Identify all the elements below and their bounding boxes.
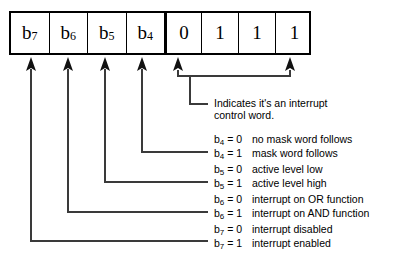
annotation-desc: active level high: [252, 177, 327, 189]
annotation-bit-expr: b5 = 1: [214, 177, 252, 191]
annotation-bit-expr: b6 = 1: [214, 207, 252, 221]
register-cell-value-1: 1: [239, 13, 276, 53]
annotation-desc: active level low: [252, 163, 323, 175]
annotation-bit-expr: b4 = 1: [214, 147, 252, 161]
register-cell-b5: b5: [88, 13, 127, 53]
annotation-bit-expr: b7 = 0: [214, 223, 252, 237]
annotation-bit-expr: b7 = 1: [214, 237, 252, 251]
arrow-up-icon-b5: [100, 57, 110, 71]
annotation-bit-expr: b6 = 0: [214, 193, 252, 207]
annotation-line: b4 = 0no mask word follows: [214, 133, 352, 147]
annotation-line: control word.: [214, 109, 327, 121]
leader-line-nibble-drop: [190, 76, 208, 104]
cell-text: 1: [290, 22, 300, 44]
arrow-up-icon-nibble-right: [285, 57, 295, 71]
annotation-line: b6 = 1interrupt on AND function: [214, 207, 369, 221]
arrow-up-icon-b7: [26, 57, 36, 71]
cell-text: 1: [215, 22, 225, 44]
leader-bracket-nibble: [178, 70, 290, 76]
register-box: b7 b6 b5 b4 0 1 1 1: [9, 11, 311, 55]
interrupt-control-word-diagram: b7 b6 b5 b4 0 1 1 1: [0, 0, 400, 272]
annotation-desc: interrupt on OR function: [252, 193, 363, 205]
annotation-line: b4 = 1mask word follows: [214, 147, 352, 161]
annotation-b6-note: b6 = 0interrupt on OR function b6 = 1int…: [214, 193, 369, 222]
cell-subscript: 4: [147, 29, 153, 44]
leader-line-b4: [142, 69, 208, 152]
annotation-line: b5 = 0active level low: [214, 163, 327, 177]
arrow-up-icon-b6: [63, 57, 73, 71]
leader-line-b7: [31, 69, 208, 241]
register-cell-b6: b6: [50, 13, 89, 53]
leader-line-b5: [105, 69, 208, 182]
register-cell-value-3: 0: [165, 13, 202, 53]
annotation-identifier-note: Indicates it's an interrupt control word…: [214, 97, 327, 122]
register-cell-b7: b7: [11, 13, 50, 53]
annotation-line: b7 = 1interrupt enabled: [214, 237, 333, 251]
annotation-desc: interrupt enabled: [252, 237, 331, 249]
register-cell-value-2: 1: [202, 13, 239, 53]
cell-subscript: 7: [32, 29, 38, 44]
annotation-b7-note: b7 = 0interrupt disabled b7 = 1interrupt…: [214, 223, 333, 252]
cell-text: b: [138, 22, 148, 44]
cell-text: 1: [252, 22, 262, 44]
annotation-line: b6 = 0interrupt on OR function: [214, 193, 369, 207]
annotation-b4-note: b4 = 0no mask word follows b4 = 1mask wo…: [214, 133, 352, 162]
annotation-line: Indicates it's an interrupt: [214, 97, 327, 109]
arrow-up-icon-nibble-left: [173, 57, 183, 71]
annotation-b5-note: b5 = 0active level low b5 = 1active leve…: [214, 163, 327, 192]
annotation-bit-expr: b4 = 0: [214, 133, 252, 147]
annotation-desc: interrupt disabled: [252, 223, 333, 235]
cell-subscript: 6: [70, 29, 76, 44]
annotation-line: b5 = 1active level high: [214, 177, 327, 191]
annotation-desc: mask word follows: [252, 147, 338, 159]
annotation-desc: interrupt on AND function: [252, 207, 369, 219]
cell-text: b: [61, 22, 71, 44]
leader-line-b6: [68, 69, 208, 212]
cell-text: b: [22, 22, 32, 44]
register-cell-b4: b4: [127, 13, 166, 53]
arrow-up-icon-b4: [137, 57, 147, 71]
register-cell-value-0: 1: [276, 13, 313, 53]
cell-subscript: 5: [109, 29, 115, 44]
annotation-line: b7 = 0interrupt disabled: [214, 223, 333, 237]
annotation-desc: no mask word follows: [252, 133, 352, 145]
cell-text: b: [99, 22, 109, 44]
cell-text: 0: [179, 22, 189, 44]
arrowheads-group: [26, 57, 295, 71]
annotation-bit-expr: b5 = 0: [214, 163, 252, 177]
